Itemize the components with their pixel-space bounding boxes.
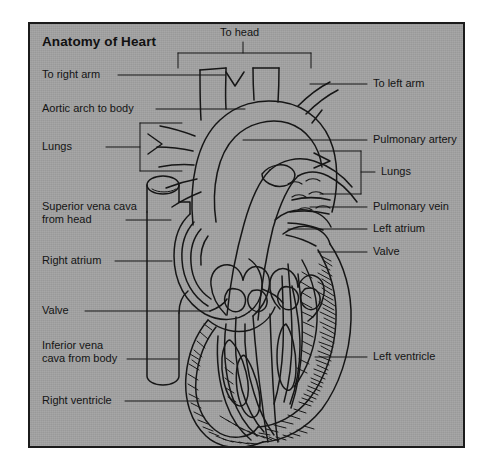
label-valve-left: Valve (42, 304, 69, 318)
label-inferior-vena-cava-line2: cava from body (42, 352, 117, 366)
label-pulmonary-vein: Pulmonary vein (373, 200, 449, 214)
label-valve-right: Valve (373, 245, 400, 259)
label-superior-vena-cava-line1: Superior vena cava (42, 200, 137, 214)
label-to-left-arm: To left arm (373, 77, 424, 91)
label-left-atrium: Left atrium (373, 222, 425, 236)
label-superior-vena-cava-line2: from head (42, 213, 92, 227)
label-to-right-arm: To right arm (42, 68, 100, 82)
label-right-atrium: Right atrium (42, 254, 101, 268)
label-pulmonary-artery: Pulmonary artery (373, 133, 457, 147)
label-inferior-vena-cava-line1: Inferior vena (42, 339, 103, 353)
label-lungs-right: Lungs (381, 165, 411, 179)
label-aortic-arch-to-body: Aortic arch to body (42, 102, 134, 116)
label-left-ventricle: Left ventricle (373, 350, 435, 364)
heart-anatomy-diagram-panel: Anatomy of Heart (28, 22, 465, 448)
figure-root: Anatomy of Heart (0, 0, 487, 468)
leader-lines (85, 42, 375, 401)
label-right-ventricle: Right ventricle (42, 394, 112, 408)
label-to-head: To head (220, 26, 259, 40)
label-lungs-left: Lungs (42, 140, 72, 154)
